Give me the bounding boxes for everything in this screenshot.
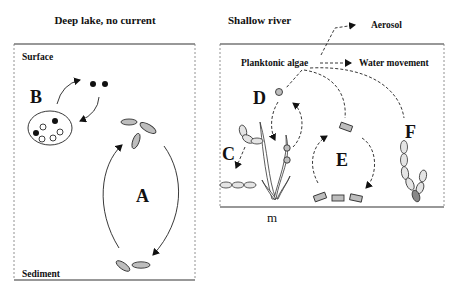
process-f-label: F [405,122,416,142]
process-e-label: E [336,150,348,170]
surface-cells [121,119,158,150]
sediment-label: Sediment [22,269,61,279]
process-c-arrow [236,147,245,168]
process-e-suspended-cell [339,122,352,132]
process-b-release-arrow [57,80,80,104]
process-e-settled-cells [313,192,362,202]
process-a-rise-arrow [103,145,122,248]
dispersal-diagram: Deep lake, no current Surface Sediment B [0,0,459,292]
process-b-label: B [30,87,42,107]
free-cells [90,81,108,87]
process-b-cell-cluster [28,111,72,145]
right-panel: Shallow river Aerosol Planktonic algae W… [220,14,444,225]
process-f-source-line [310,68,404,118]
process-c-label: C [222,144,235,164]
bottom-m-label: m [267,210,277,225]
process-d-up-arrow [293,103,302,147]
colony-envelope [28,111,72,145]
surface-label: Surface [22,52,53,62]
process-c-drifting-filament [220,182,256,188]
right-panel-title: Shallow river [228,14,291,26]
process-b-return-arrow [80,97,99,121]
process-c-attached-filament [238,124,263,145]
water-movement-label: Water movement [359,58,430,68]
process-d-down-arrow [272,102,278,140]
aerosol-label: Aerosol [371,20,402,30]
process-e-down-arrow [362,138,375,188]
left-panel-title: Deep lake, no current [54,14,156,26]
aquatic-plant [260,122,290,199]
process-f-filament [400,141,427,203]
left-panel: Deep lake, no current Surface Sediment B [14,14,195,280]
process-d-cell [276,89,283,96]
process-d-source-line [286,70,302,88]
process-d-label: D [253,88,266,108]
process-e-up-arrow [312,136,327,183]
aerosol-arrow [321,25,355,55]
process-a-label: A [136,186,149,206]
process-e-source-line [304,70,345,118]
planktonic-algae-label: Planktonic algae [241,58,308,68]
sediment-cells [115,259,150,273]
process-a-sink-arrow [153,146,179,255]
left-panel-frame [14,44,195,280]
